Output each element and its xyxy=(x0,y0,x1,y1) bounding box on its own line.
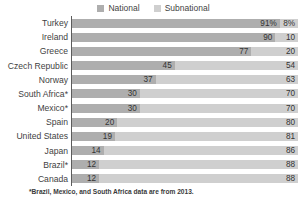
bar-row: South Africa*3070 xyxy=(0,87,307,101)
bar-value-subnational: 10 xyxy=(286,33,298,42)
bar-stack: 1288 xyxy=(72,160,298,169)
category-label: Greece xyxy=(0,46,68,56)
bar-stack: 3763 xyxy=(72,75,298,84)
category-label: Brazil* xyxy=(0,160,68,170)
bar-value-subnational: 70 xyxy=(286,104,298,113)
bar-stack: 91%8% xyxy=(72,19,298,28)
bar-segment-national: 12 xyxy=(72,160,99,169)
bar-segment-national: 91% xyxy=(72,19,280,28)
bar-value-subnational: 81 xyxy=(286,132,298,141)
category-label: Ireland xyxy=(0,32,68,42)
stacked-bar-chart: National Subnational Turkey91%8%Ireland9… xyxy=(0,0,307,203)
bar-value-national: 30 xyxy=(128,89,140,98)
bar-segment-subnational: 8% xyxy=(280,19,298,28)
legend-entry-subnational: Subnational xyxy=(154,4,210,13)
bar-segment-subnational: 54 xyxy=(175,61,298,70)
bar-value-national: 19 xyxy=(103,132,115,141)
bar-stack: 1486 xyxy=(72,146,298,155)
bar-value-national: 91% xyxy=(260,19,279,28)
bar-value-subnational: 70 xyxy=(286,89,298,98)
bar-segment-national: 20 xyxy=(72,118,117,127)
bar-segment-national: 37 xyxy=(72,75,156,84)
legend-entry-national: National xyxy=(97,4,139,13)
bar-stack: 9010 xyxy=(72,33,298,42)
legend-label-subnational: Subnational xyxy=(165,4,210,13)
bar-value-subnational: 54 xyxy=(286,61,298,70)
bar-segment-subnational: 10 xyxy=(275,33,298,42)
bar-stack: 4554 xyxy=(72,61,298,70)
category-label: Spain xyxy=(0,117,68,127)
bar-row: Czech Republic4554 xyxy=(0,59,307,73)
bar-stack: 1288 xyxy=(72,174,298,183)
bar-rows: Turkey91%8%Ireland9010Greece7720Czech Re… xyxy=(0,16,307,186)
bar-segment-subnational: 63 xyxy=(156,75,298,84)
bar-segment-subnational: 70 xyxy=(140,89,298,98)
bar-value-subnational: 88 xyxy=(286,160,298,169)
bar-segment-subnational: 88 xyxy=(99,160,298,169)
bar-stack: 3070 xyxy=(72,104,298,113)
category-label: South Africa* xyxy=(0,89,68,99)
bar-stack: 3070 xyxy=(72,89,298,98)
category-label: United States xyxy=(0,131,68,141)
bar-segment-national: 14 xyxy=(72,146,104,155)
bar-stack: 1981 xyxy=(72,132,298,141)
chart-footnote: *Brazil, Mexico, and South Africa data a… xyxy=(29,188,194,196)
bar-segment-subnational: 81 xyxy=(115,132,298,141)
bar-row: Mexico*3070 xyxy=(0,101,307,115)
bar-segment-national: 30 xyxy=(72,89,140,98)
bar-value-subnational: 80 xyxy=(286,118,298,127)
bar-value-national: 12 xyxy=(87,160,99,169)
bar-value-national: 20 xyxy=(105,118,117,127)
category-label: Canada xyxy=(0,174,68,184)
bar-row: Brazil*1288 xyxy=(0,158,307,172)
bar-segment-subnational: 80 xyxy=(117,118,298,127)
bar-value-national: 45 xyxy=(163,61,175,70)
category-label: Mexico* xyxy=(0,103,68,113)
bar-value-subnational: 8% xyxy=(283,19,298,28)
bar-value-subnational: 63 xyxy=(286,75,298,84)
category-label: Turkey xyxy=(0,18,68,28)
bar-row: Canada1288 xyxy=(0,172,307,186)
bar-segment-subnational: 20 xyxy=(251,47,298,56)
bar-segment-national: 19 xyxy=(72,132,115,141)
bar-value-subnational: 88 xyxy=(286,174,298,183)
bar-value-national: 14 xyxy=(92,146,104,155)
bar-segment-national: 90 xyxy=(72,33,275,42)
chart-legend: National Subnational xyxy=(0,2,307,14)
category-label: Czech Republic xyxy=(0,61,68,71)
bar-value-national: 30 xyxy=(128,104,140,113)
bar-value-national: 12 xyxy=(87,174,99,183)
bar-segment-national: 77 xyxy=(72,47,251,56)
legend-label-national: National xyxy=(108,4,139,13)
bar-segment-national: 12 xyxy=(72,174,99,183)
bar-segment-subnational: 70 xyxy=(140,104,298,113)
bar-segment-subnational: 86 xyxy=(104,146,298,155)
bar-value-national: 37 xyxy=(144,75,156,84)
bar-row: Japan1486 xyxy=(0,144,307,158)
bar-value-subnational: 86 xyxy=(286,146,298,155)
bar-value-national: 77 xyxy=(239,47,251,56)
bar-row: Norway3763 xyxy=(0,73,307,87)
plot-area: Turkey91%8%Ireland9010Greece7720Czech Re… xyxy=(0,16,307,186)
bar-segment-national: 45 xyxy=(72,61,175,70)
bar-value-national: 90 xyxy=(263,33,275,42)
bar-row: Spain2080 xyxy=(0,115,307,129)
bar-row: Turkey91%8% xyxy=(0,16,307,30)
bar-segment-national: 30 xyxy=(72,104,140,113)
category-label: Japan xyxy=(0,146,68,156)
bar-row: Ireland9010 xyxy=(0,30,307,44)
legend-swatch-national xyxy=(97,5,104,12)
category-label: Norway xyxy=(0,75,68,85)
bar-stack: 2080 xyxy=(72,118,298,127)
bar-segment-subnational: 88 xyxy=(99,174,298,183)
bar-row: United States1981 xyxy=(0,129,307,143)
bar-row: Greece7720 xyxy=(0,44,307,58)
bar-value-subnational: 20 xyxy=(286,47,298,56)
bar-stack: 7720 xyxy=(72,47,298,56)
legend-swatch-subnational xyxy=(154,5,161,12)
